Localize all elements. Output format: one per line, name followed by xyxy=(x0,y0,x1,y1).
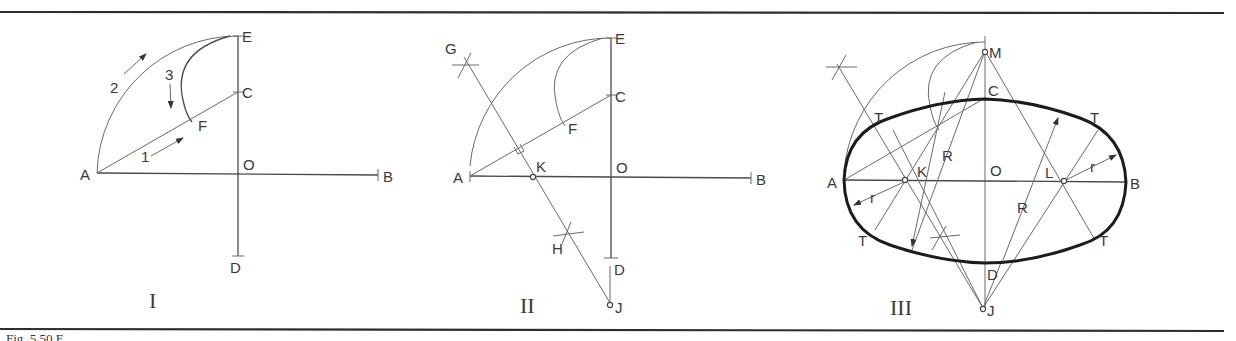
point-K: K xyxy=(917,163,927,180)
point-B: B xyxy=(1130,175,1140,192)
point-A: A xyxy=(827,174,837,191)
point-O: O xyxy=(990,162,1002,179)
tangent-point-T: T xyxy=(1099,232,1108,249)
radius-r-label: r xyxy=(1090,158,1095,175)
point-F: F xyxy=(198,117,207,134)
point-L: L xyxy=(1045,164,1053,181)
ellipse-construction-figure: 1 2 3 A B C D E F O I A xyxy=(0,0,1236,341)
point-C: C xyxy=(242,84,253,101)
step-1-label: 1 xyxy=(141,148,149,165)
point-C: C xyxy=(988,82,999,99)
point-O: O xyxy=(616,159,628,176)
panel-I: 1 2 3 A B C D E F O I xyxy=(80,28,393,313)
bottom-rule xyxy=(0,329,1224,331)
point-G: G xyxy=(445,40,457,57)
point-B: B xyxy=(756,171,766,188)
point-F: F xyxy=(568,120,577,137)
top-rule xyxy=(0,12,1224,13)
point-D: D xyxy=(230,259,241,276)
point-K: K xyxy=(536,158,546,175)
point-A: A xyxy=(80,166,90,183)
step-3-label: 3 xyxy=(165,66,173,83)
radius-R-label: R xyxy=(1017,199,1028,216)
panel-numeral-II: II xyxy=(520,293,535,318)
point-O: O xyxy=(243,156,255,173)
point-M: M xyxy=(989,44,1002,61)
point-C: C xyxy=(615,88,626,105)
panel-II: A B C D E F O G H K J II xyxy=(445,30,766,318)
point-D: D xyxy=(987,266,998,283)
step-2-label: 2 xyxy=(110,79,118,96)
tangent-point-T: T xyxy=(1090,109,1099,126)
panel-numeral-I: I xyxy=(149,288,156,313)
point-E: E xyxy=(615,30,625,47)
point-J: J xyxy=(987,302,995,319)
panel-numeral-III: III xyxy=(890,295,912,320)
tangent-point-T: T xyxy=(874,109,883,126)
point-J: J xyxy=(615,299,623,316)
point-E: E xyxy=(242,28,252,45)
point-H: H xyxy=(552,240,563,257)
panel-III: A B C D O M K L J T T T T R R r r III xyxy=(826,36,1140,320)
point-D: D xyxy=(614,261,625,278)
figure-caption: Fig. 5.50 E xyxy=(6,332,64,341)
radius-r-label: r xyxy=(870,189,875,206)
point-A: A xyxy=(453,169,463,186)
tangent-point-T: T xyxy=(858,232,867,249)
radius-R-label: R xyxy=(942,147,953,164)
point-B: B xyxy=(383,168,393,185)
